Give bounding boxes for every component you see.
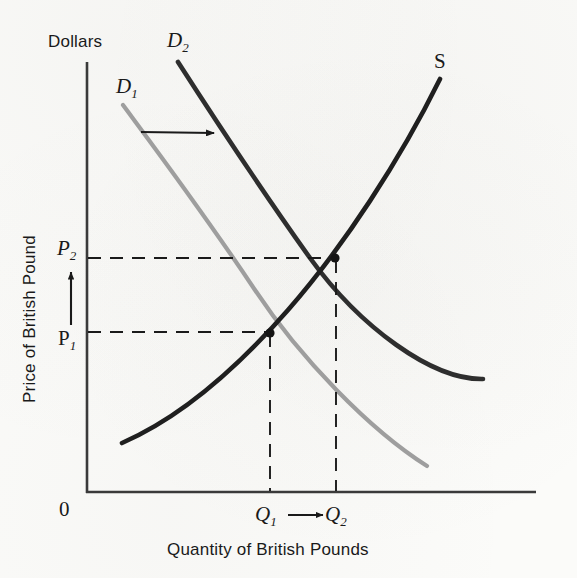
demand-shift-arrow-icon <box>141 132 214 133</box>
curve-label-d1-text: D <box>116 74 131 98</box>
demand-curve-d1 <box>123 105 427 466</box>
price-label-p2: P2 <box>57 236 76 264</box>
curve-label-d1: D1 <box>116 74 138 102</box>
equilibrium-guides-e2 <box>88 258 336 491</box>
curve-label-s: S <box>434 49 446 74</box>
origin-label: 0 <box>59 497 70 522</box>
curve-label-d1-sub: 1 <box>131 86 138 101</box>
supply-curve-s <box>122 79 440 443</box>
y-axis-top-label: Dollars <box>48 32 102 52</box>
price-label-p1: P1 <box>58 326 76 354</box>
quantity-label-q2-sub: 2 <box>340 514 347 529</box>
price-label-p1-sub: 1 <box>70 338 77 353</box>
quantity-label-q2-text: Q <box>325 502 340 526</box>
price-label-p2-sub: 2 <box>70 248 77 263</box>
quantity-label-q1-sub: 1 <box>270 514 277 529</box>
equilibrium-point-e1 <box>265 328 274 337</box>
curve-label-d2-text: D <box>167 28 182 52</box>
quantity-label-q1: Q1 <box>255 502 277 530</box>
supply-demand-chart <box>0 0 577 578</box>
price-label-p2-text: P <box>57 236 70 260</box>
y-axis-title: Price of British Pound <box>20 235 40 403</box>
equilibrium-point-e2 <box>330 253 339 262</box>
curve-label-d2: D2 <box>167 28 189 56</box>
quantity-label-q2: Q2 <box>325 502 347 530</box>
figure-canvas: Dollars Price of British Pound Quantity … <box>0 0 577 578</box>
curve-label-d2-sub: 2 <box>182 40 189 55</box>
quantity-label-q1-text: Q <box>255 502 270 526</box>
x-axis-title: Quantity of British Pounds <box>167 540 369 560</box>
curve-label-s-text: S <box>434 49 446 73</box>
price-label-p1-text: P <box>58 326 70 350</box>
